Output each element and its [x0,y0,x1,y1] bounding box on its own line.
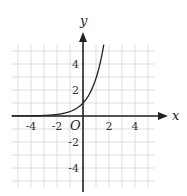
x-axis-label: x [172,108,180,123]
y-axis-label: y [79,13,88,28]
exponential-curve [12,45,104,116]
x-axis-arrow-icon [158,112,168,120]
x-tick-label: 2 [106,120,113,133]
y-axis-arrow-icon [79,32,87,42]
y-tick-label: -4 [68,162,79,175]
function-graph: -4-22442-2-4 x y O [0,0,187,196]
x-tick-label: -2 [52,120,63,133]
y-tick-label: 2 [72,84,79,97]
x-tick-label: -4 [26,120,37,133]
origin-label: O [70,118,81,133]
y-tick-label: 4 [72,58,79,71]
x-tick-label: 4 [132,120,139,133]
y-tick-label: -2 [68,136,79,149]
